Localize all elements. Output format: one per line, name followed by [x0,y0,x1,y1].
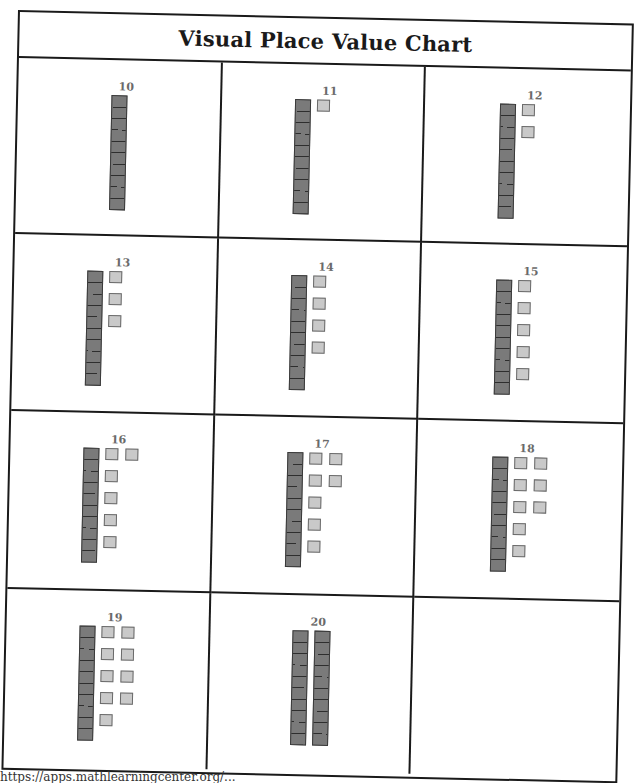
ones-cube-icon [120,692,133,704]
ones-cube-icon [307,518,320,530]
ones-cube-icon [513,501,526,513]
ones-cube-icon [329,453,342,465]
ones-cube-icon [100,692,113,704]
ones-cube-icon [109,271,122,283]
number-cell-17: 17 [211,415,418,597]
number-label: 18 [519,442,535,455]
ones-cube-icon [120,670,133,682]
ones-cube-icon [512,523,525,535]
ones-cube-icon [312,297,325,309]
ones-cube-icon [516,368,529,380]
number-cell-14: 14 [215,238,422,419]
ones-cube-icon [533,501,546,513]
number-cell-10: 10 [15,58,223,238]
tens-rod-icon [489,456,508,571]
tens-rod-icon [292,99,311,214]
ones-cubes [521,104,556,139]
ones-cube-icon [316,100,329,112]
blocks [288,275,346,391]
ones-cube-icon [311,341,324,353]
blocks [77,625,135,741]
ones-cube-icon [516,346,529,358]
place-value-table: Visual Place Value Chart 101112131415161… [1,10,633,783]
tens-rod-icon [493,279,512,394]
ones-cubes [103,448,139,549]
ones-cube-icon [104,492,117,504]
ones-cube-icon [100,670,113,682]
blocks [109,95,128,210]
blocks [290,630,330,746]
base-ten-model: 16 [81,433,140,564]
base-ten-model: 18 [489,441,548,572]
ones-cube-icon [121,648,134,660]
ones-cube-icon [103,536,116,548]
base-ten-model: 12 [497,89,556,220]
base-ten-model: 20 [290,615,331,746]
tens-rod-icon [284,452,303,567]
ones-cube-icon [101,648,114,660]
ones-cube-icon [514,457,527,469]
chart-title: Visual Place Value Chart [178,25,472,56]
number-cell-20: 20 [207,593,414,773]
tens-rod-icon [81,448,100,563]
ones-cube-icon [109,293,122,305]
ones-cube-icon [517,280,530,292]
blocks [81,448,139,564]
empty-cell [410,598,619,778]
blocks [497,104,555,220]
ones-cube-icon [105,448,118,460]
ones-cube-icon [312,319,325,331]
ones-cube-icon [512,545,525,557]
number-label: 13 [115,256,131,269]
source-url: https://apps.mathlearningcenter.org/... [0,770,236,783]
ones-cube-icon [313,275,326,287]
blocks [489,456,547,572]
tens-rod-icon [497,104,516,219]
ones-cube-icon [104,514,117,526]
ones-cubes [99,626,135,727]
number-label: 19 [107,611,123,624]
ones-cube-icon [121,626,134,638]
base-ten-model: 19 [77,610,136,741]
base-ten-model: 17 [284,437,343,568]
number-label: 14 [318,261,334,274]
number-cell-12: 12 [422,67,631,247]
blocks [292,99,350,215]
number-cell-13: 13 [11,234,219,415]
ones-cube-icon [534,457,547,469]
number-grid: 1011121314151617181920 [4,58,631,778]
number-label: 11 [322,85,338,98]
ones-cubes [516,280,552,381]
ones-cube-icon [308,474,321,486]
number-label: 10 [119,80,135,93]
ones-cubes [307,452,343,553]
blocks [85,271,143,387]
ones-cube-icon [101,626,114,638]
ones-cube-icon [99,714,112,726]
number-cell-18: 18 [414,420,623,602]
ones-cubes [311,275,347,354]
base-ten-model: 13 [85,256,144,387]
number-cell-11: 11 [219,62,426,242]
base-ten-model: 14 [288,260,347,391]
ones-cube-icon [328,475,341,487]
ones-cube-icon [105,470,118,482]
number-label: 20 [310,616,326,629]
tens-rod-icon [77,625,96,740]
ones-cubes [316,100,350,113]
number-label: 15 [523,265,539,278]
ones-cube-icon [533,479,546,491]
tens-rod-icon [85,271,104,386]
ones-cube-icon [517,302,530,314]
blocks [284,452,342,568]
number-label: 12 [527,89,543,102]
ones-cube-icon [513,479,526,491]
ones-cube-icon [521,104,534,116]
ones-cube-icon [307,540,320,552]
number-label: 17 [314,438,330,451]
base-ten-model: 10 [102,80,134,211]
tens-rod-icon [109,95,128,210]
ones-cubes [512,457,548,558]
ones-cubes [108,271,143,328]
worksheet: Visual Place Value Chart 101112131415161… [1,10,633,783]
